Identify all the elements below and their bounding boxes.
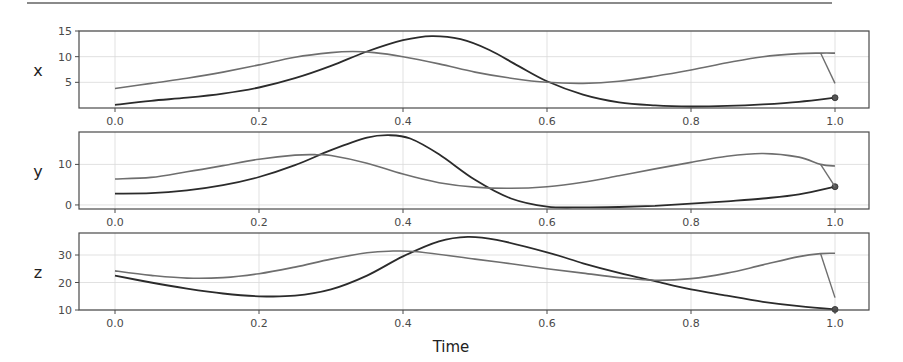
y-tick-label: 10 [58, 51, 72, 64]
y-tick-label: 10 [58, 304, 72, 317]
y-tick-label: 20 [58, 277, 72, 290]
x-tick-label: 0.2 [250, 216, 268, 229]
x-tick-label: 0.6 [538, 216, 556, 229]
y-axis-label-z: z [34, 263, 42, 282]
x-tick-label: 0.8 [682, 216, 700, 229]
series-trajectory-gray-line [115, 153, 835, 188]
subplot-frame [79, 233, 869, 310]
x-tick-label: 0.6 [538, 115, 556, 128]
x-tick-label: 0.0 [106, 216, 124, 229]
x-tick-label: 0.4 [394, 115, 412, 128]
series-end-hook [821, 53, 835, 83]
y-tick-label: 0 [65, 199, 72, 212]
x-tick-label: 0.0 [106, 115, 124, 128]
x-tick-label: 0.4 [394, 317, 412, 330]
y-axis-label-y: y [33, 162, 42, 181]
time-series-figure: 510150.00.20.40.60.81.0x0100.00.20.40.60… [0, 0, 903, 362]
x-tick-label: 1.0 [826, 216, 844, 229]
x-axis-title: Time [432, 338, 470, 356]
x-tick-label: 1.0 [826, 115, 844, 128]
x-tick-label: 0.8 [682, 317, 700, 330]
subplot-y: 0100.00.20.40.60.81.0y [33, 132, 869, 229]
subplot-z: 1020300.00.20.40.60.81.0z [34, 233, 869, 330]
x-tick-label: 0.2 [250, 317, 268, 330]
x-tick-label: 0.0 [106, 317, 124, 330]
x-tick-label: 0.2 [250, 115, 268, 128]
series-trajectory-dark-line [115, 135, 835, 207]
x-tick-label: 0.8 [682, 115, 700, 128]
y-tick-label: 10 [58, 158, 72, 171]
x-tick-label: 1.0 [826, 317, 844, 330]
y-tick-label: 15 [58, 25, 72, 38]
series-end-hook [821, 254, 835, 298]
y-axis-label-x: x [33, 61, 42, 80]
series-end-marker [832, 95, 838, 101]
x-tick-label: 0.6 [538, 317, 556, 330]
y-tick-label: 30 [58, 249, 72, 262]
y-tick-label: 5 [65, 76, 72, 89]
series-end-hook [821, 164, 835, 186]
subplot-x: 510150.00.20.40.60.81.0x [33, 25, 869, 128]
x-tick-label: 0.4 [394, 216, 412, 229]
